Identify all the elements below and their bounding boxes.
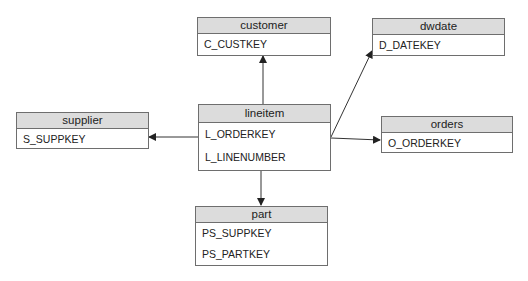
- entity-attribute: S_SUPPKEY: [17, 129, 148, 150]
- entity-orders[interactable]: orders O_ORDERKEY: [381, 116, 513, 153]
- entity-attribute: D_DATEKEY: [373, 35, 504, 56]
- entity-title: part: [196, 207, 327, 223]
- entity-part[interactable]: part PS_SUPPKEY PS_PARTKEY: [195, 206, 328, 266]
- entity-title: supplier: [17, 113, 148, 129]
- entity-attribute: L_ORDERKEY: [199, 123, 330, 146]
- entity-attribute: C_CUSTKEY: [198, 34, 330, 55]
- entity-title: lineitem: [199, 105, 330, 123]
- link-lineitem-orders: [331, 138, 380, 140]
- entity-attribute: PS_PARTKEY: [196, 244, 327, 265]
- entity-customer[interactable]: customer C_CUSTKEY: [197, 17, 331, 56]
- entity-attribute: O_ORDERKEY: [382, 133, 512, 154]
- entity-title: dwdate: [373, 19, 504, 35]
- entity-supplier[interactable]: supplier S_SUPPKEY: [16, 112, 149, 149]
- entity-attribute: PS_SUPPKEY: [196, 223, 327, 244]
- entity-dwdate[interactable]: dwdate D_DATEKEY: [372, 18, 505, 56]
- entity-lineitem[interactable]: lineitem L_ORDERKEY L_LINENUMBER: [198, 104, 331, 171]
- entity-title: orders: [382, 117, 512, 133]
- entity-title: customer: [198, 18, 330, 34]
- link-lineitem-dwdate: [331, 51, 372, 137]
- entity-attribute: L_LINENUMBER: [199, 146, 330, 169]
